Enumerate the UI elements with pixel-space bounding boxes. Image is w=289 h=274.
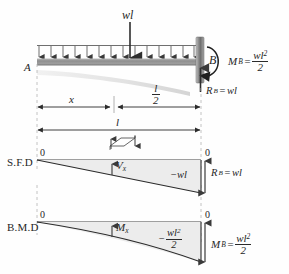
- beam-right-label: B: [209, 54, 216, 66]
- sfd-reaction-symbol: R: [211, 168, 217, 179]
- moment-reaction-numerator: wl: [253, 49, 263, 61]
- bmd-max-fraction: wl2 2: [166, 228, 181, 250]
- vertical-reaction-value: wl: [227, 86, 237, 97]
- sfd-reaction-equals: =: [224, 168, 231, 179]
- sfd-reaction-label: RB=wl: [211, 168, 242, 179]
- bmd-moment-subscript: B: [221, 241, 226, 248]
- beam-diagram-figure: wl A B MB= wl2 2 RB=wl x l 2 l S.F.D 0 0: [0, 0, 289, 274]
- resultant-load-label: wl: [122, 9, 133, 21]
- bmd-section-label: Mx: [116, 222, 129, 234]
- bmd-moment-numerator: wl: [236, 232, 246, 244]
- vertical-reaction-equals: =: [219, 86, 226, 97]
- distributed-load-arrows: [39, 46, 194, 58]
- bmd-max-sign: −: [158, 234, 165, 245]
- bmd-section-symbol: M: [116, 221, 125, 233]
- bmd-tag: B.M.D: [7, 222, 39, 233]
- sfd-section-subscript: x: [123, 164, 126, 173]
- beam-assembly: [37, 22, 218, 96]
- moment-reaction-label: MB= wl2 2: [228, 50, 268, 74]
- bmd-max-exponent: 2: [177, 227, 181, 235]
- bmd-max-value: − wl2 2: [158, 228, 182, 250]
- deflected-shape-curve: [37, 70, 190, 96]
- sfd-section-label: Vx: [116, 160, 126, 172]
- bmd-moment-symbol: M: [211, 239, 220, 250]
- sfd-right-zero: 0: [205, 148, 210, 158]
- vertical-reaction-label: RB=wl: [206, 86, 237, 97]
- sfd-tag: S.F.D: [7, 157, 33, 168]
- sfd-reaction-value: wl: [232, 168, 242, 179]
- bmd-moment-equals: =: [227, 239, 234, 250]
- vertical-reaction-subscript: B: [213, 88, 217, 95]
- beam-left-label: A: [24, 62, 31, 73]
- bmd-max-numerator: wl: [167, 227, 177, 238]
- bmd-moment-label: MB= wl2 2: [211, 233, 251, 257]
- beam-body: [37, 59, 197, 66]
- moment-reaction-equals: =: [244, 56, 251, 67]
- half-span-denominator: 2: [152, 95, 160, 106]
- moment-reaction-symbol: M: [228, 56, 237, 67]
- bmd-moment-denominator: 2: [235, 245, 251, 256]
- moment-reaction-exponent: 2: [264, 49, 268, 58]
- beam-element-icon: [110, 135, 135, 150]
- sfd-section-symbol: V: [116, 159, 123, 171]
- bmd-max-denominator: 2: [166, 240, 181, 251]
- bmd-right-zero: 0: [205, 210, 210, 220]
- bmd-section-subscript: x: [125, 226, 128, 235]
- dim-x-label: x: [69, 94, 74, 105]
- bmd-left-zero: 0: [40, 210, 45, 220]
- sfd-reaction-subscript: B: [218, 170, 222, 177]
- moment-reaction-subscript: B: [238, 58, 243, 65]
- dim-full-span-label: l: [116, 117, 119, 128]
- sfd-max-value: −wl: [170, 170, 187, 181]
- bmd-moment-exponent: 2: [247, 232, 251, 241]
- dim-half-span-label: l 2: [152, 83, 160, 106]
- moment-reaction-fraction: wl2 2: [252, 50, 268, 74]
- moment-reaction-denominator: 2: [252, 62, 268, 73]
- vertical-reaction-symbol: R: [206, 86, 212, 97]
- bmd-moment-fraction: wl2 2: [235, 233, 251, 257]
- sfd-left-zero: 0: [40, 148, 45, 158]
